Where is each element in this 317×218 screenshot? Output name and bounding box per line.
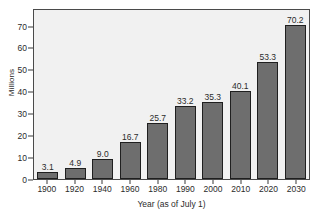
bar-chart-figure: Millions 010203040506070 3.14.99.016.725… [0,0,317,218]
y-tick-label: 50 [18,65,27,75]
x-tick-label: 2010 [231,184,250,194]
bar-value-label: 9.0 [97,149,109,159]
y-tick-label: 60 [18,43,27,53]
bar-slot: 16.7 [117,10,145,179]
x-tick-label: 2000 [204,184,223,194]
bar-value-label: 16.7 [122,132,139,142]
bar-slot: 53.3 [254,10,282,179]
bar: 35.3 [202,102,223,179]
bar-slot: 25.7 [144,10,172,179]
bar: 70.2 [285,25,306,179]
y-tick-label: 70 [18,22,27,32]
x-tick-slot: 2010 [227,180,255,195]
y-tick-label: 40 [18,87,27,97]
bar: 3.1 [37,172,58,179]
y-axis-ticks: 010203040506070 [0,9,33,180]
x-axis-ticks: 1900192019401960198019902000201020202030 [33,180,310,195]
bar-value-label: 53.3 [259,52,276,62]
x-tick-slot: 2000 [199,180,227,195]
x-tick-slot: 2020 [255,180,283,195]
y-tick-label: 20 [18,131,27,141]
bar-value-label: 3.1 [42,162,54,172]
bar-slot: 70.2 [282,10,310,179]
bar: 40.1 [230,91,251,179]
bar-value-label: 33.2 [177,96,194,106]
x-tick-label: 2020 [259,184,278,194]
bar-value-label: 25.7 [149,113,166,123]
bar: 33.2 [175,106,196,179]
x-tick-label: 1960 [120,184,139,194]
y-tick-label: 30 [18,109,27,119]
bar-value-label: 40.1 [232,81,249,91]
bar-value-label: 35.3 [204,92,221,102]
x-tick-slot: 1940 [88,180,116,195]
plot-area: 3.14.99.016.725.733.235.340.153.370.2 [33,9,310,180]
x-tick-label: 1900 [37,184,56,194]
x-tick-slot: 2030 [282,180,310,195]
bar-series: 3.14.99.016.725.733.235.340.153.370.2 [34,10,309,179]
y-tick-label: 0 [22,175,27,185]
x-tick-label: 1920 [65,184,84,194]
bar: 53.3 [257,62,278,179]
x-tick-label: 1940 [93,184,112,194]
bar-value-label: 4.9 [69,158,81,168]
x-tick-slot: 1990 [172,180,200,195]
x-tick-slot: 1980 [144,180,172,195]
y-tick-label: 10 [18,153,27,163]
bar-slot: 3.1 [34,10,62,179]
x-tick-slot: 1960 [116,180,144,195]
x-axis-title: Year (as of July 1) [33,199,310,209]
bar: 16.7 [120,142,141,179]
bar-slot: 35.3 [199,10,227,179]
bar: 4.9 [65,168,86,179]
x-tick-slot: 1900 [33,180,61,195]
bar-slot: 40.1 [227,10,255,179]
x-tick-label: 1990 [176,184,195,194]
bar: 25.7 [147,123,168,179]
bar-slot: 4.9 [62,10,90,179]
bar-slot: 33.2 [172,10,200,179]
x-tick-label: 2030 [287,184,306,194]
x-tick-slot: 1920 [61,180,89,195]
bar: 9.0 [92,159,113,179]
bar-value-label: 70.2 [287,15,304,25]
x-tick-label: 1980 [148,184,167,194]
bar-slot: 9.0 [89,10,117,179]
